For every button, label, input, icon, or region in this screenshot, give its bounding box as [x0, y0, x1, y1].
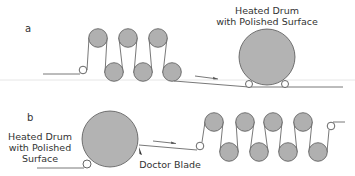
panel-a-label: a [25, 23, 31, 34]
panel-b-label: b [27, 112, 33, 123]
panel-b-bottom-roller [220, 143, 239, 162]
panel-b-nip-idler [83, 160, 91, 168]
panel-b-bottom-roller [279, 143, 298, 162]
panel-a-heated-drum [239, 29, 295, 85]
panel-b-drum-label: Heated Drum [8, 131, 72, 142]
panel-a-nip-idler [282, 81, 289, 88]
panel-b-bottom-roller [250, 143, 269, 162]
panel-b-drum-label: with Polished [9, 142, 72, 153]
panel-a-bottom-roller [163, 63, 182, 82]
panel-b-top-roller [264, 113, 283, 132]
panel-b: b Heated Drum with Polished Surface Doct… [8, 111, 345, 170]
panel-b-top-roller [236, 113, 255, 132]
panel-a-bottom-roller [134, 63, 153, 82]
panel-b-top-roller [205, 113, 224, 132]
panel-a-bottom-roller [105, 63, 124, 82]
panel-b-exit-idler [327, 122, 335, 130]
panel-a-drum-label: with Polished Surface [216, 16, 318, 27]
panel-a-top-roller [89, 29, 108, 48]
film-process-diagram: a Heated Drum with Polished Surface b He… [0, 0, 355, 176]
doctor-blade-icon [139, 147, 142, 155]
panel-a-top-roller [119, 29, 138, 48]
panel-a: a Heated Drum with Polished Surface [25, 5, 343, 88]
panel-a-top-roller [149, 29, 168, 48]
doctor-blade-label: Doctor Blade [139, 159, 201, 170]
panel-b-top-roller [294, 113, 313, 132]
panel-b-drum-label: Surface [22, 153, 58, 164]
panel-b-entry-idler [196, 142, 204, 150]
panel-a-nip-idler [246, 81, 253, 88]
panel-b-bottom-roller [309, 143, 328, 162]
arrow-right-icon [195, 76, 218, 80]
panel-b-heated-drum [82, 111, 138, 167]
arrow-right-icon [153, 141, 176, 144]
panel-a-drum-label: Heated Drum [235, 5, 299, 16]
panel-a-entry-idler [79, 66, 87, 74]
